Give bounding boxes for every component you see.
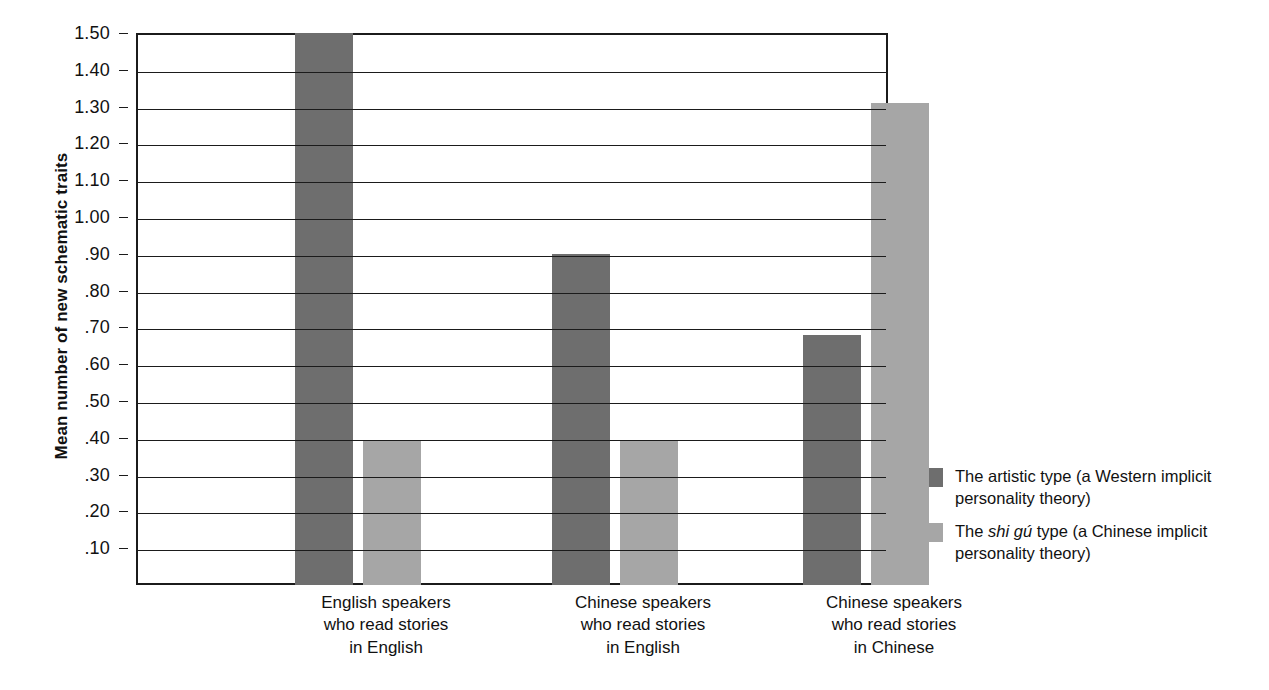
y-axis-tick-label: .60 xyxy=(0,355,110,373)
gridline xyxy=(138,550,886,551)
y-axis-tick-label: 1.30 xyxy=(0,98,110,116)
y-axis-tick-label: .20 xyxy=(0,502,110,520)
y-axis-tick-label: .80 xyxy=(0,282,110,300)
legend-label: The shi gú type (a Chinese implicitperso… xyxy=(955,521,1207,565)
legend-swatch xyxy=(924,523,943,542)
y-axis-tick-label: .70 xyxy=(0,318,110,336)
bar-chart-figure: Mean number of new schematic traits 1.50… xyxy=(0,0,1269,690)
y-axis-tick-mark xyxy=(119,254,128,255)
gridline xyxy=(138,145,886,146)
plot-area xyxy=(136,33,888,585)
y-axis-tick-mark xyxy=(119,180,128,181)
x-axis-category-line: who read stories xyxy=(276,614,496,636)
gridline xyxy=(138,403,886,404)
x-axis-category-line: Chinese speakers xyxy=(533,592,753,614)
y-axis-tick-mark xyxy=(119,364,128,365)
y-axis-tick-mark xyxy=(119,70,128,71)
y-axis-tick-label: 1.50 xyxy=(0,24,110,42)
x-axis-category-line: who read stories xyxy=(784,614,1004,636)
x-axis-category-line: Chinese speakers xyxy=(784,592,1004,614)
y-axis-tick-mark xyxy=(119,143,128,144)
gridline xyxy=(138,440,886,441)
y-axis-tick-mark xyxy=(119,107,128,108)
y-axis-tick-label: .90 xyxy=(0,245,110,263)
y-axis-tick-mark xyxy=(119,475,128,476)
y-axis-tick-label: 1.40 xyxy=(0,61,110,79)
gridline xyxy=(138,293,886,294)
x-axis-category-label: English speakerswho read storiesin Engli… xyxy=(276,592,496,659)
gridline xyxy=(138,109,886,110)
y-axis-tick-mark xyxy=(119,548,128,549)
x-axis-category-line: in English xyxy=(276,637,496,659)
legend: The artistic type (a Western implicitper… xyxy=(924,466,1254,576)
x-axis-category-label: Chinese speakerswho read storiesin Chine… xyxy=(784,592,1004,659)
y-axis-tick-label: .10 xyxy=(0,539,110,557)
y-axis-tick-label: .50 xyxy=(0,392,110,410)
legend-item[interactable]: The shi gú type (a Chinese implicitperso… xyxy=(924,521,1254,565)
y-axis-tick-mark xyxy=(119,511,128,512)
legend-label-line: The artistic type (a Western implicit xyxy=(955,466,1211,488)
legend-label-line: personality theory) xyxy=(955,488,1211,510)
y-axis-tick-label: 1.20 xyxy=(0,134,110,152)
gridline xyxy=(138,477,886,478)
legend-label-emphasis: shi gú xyxy=(988,522,1032,540)
y-axis-tick-label: .30 xyxy=(0,466,110,484)
y-axis-tick-mark xyxy=(119,401,128,402)
gridline xyxy=(138,513,886,514)
gridline xyxy=(138,72,886,73)
x-axis-category-labels: English speakerswho read storiesin Engli… xyxy=(136,592,888,672)
x-axis-category-line: in English xyxy=(533,637,753,659)
legend-item[interactable]: The artistic type (a Western implicitper… xyxy=(924,466,1254,510)
x-axis-category-line: in Chinese xyxy=(784,637,1004,659)
gridline xyxy=(138,256,886,257)
legend-label-line: The shi gú type (a Chinese implicit xyxy=(955,521,1207,543)
x-axis-category-label: Chinese speakerswho read storiesin Engli… xyxy=(533,592,753,659)
y-axis-tick-mark xyxy=(119,438,128,439)
y-axis-tick-label: 1.00 xyxy=(0,208,110,226)
x-axis-category-line: who read stories xyxy=(533,614,753,636)
y-axis-tick-labels: 1.501.401.301.201.101.00.90.80.70.60.50.… xyxy=(0,33,128,585)
legend-swatch xyxy=(924,468,943,487)
x-axis-category-line: English speakers xyxy=(276,592,496,614)
y-axis-tick-mark xyxy=(119,33,128,34)
y-axis-tick-label: .40 xyxy=(0,429,110,447)
y-axis-tick-label: 1.10 xyxy=(0,171,110,189)
y-axis-tick-mark xyxy=(119,327,128,328)
y-axis-tick-mark xyxy=(119,217,128,218)
gridline xyxy=(138,366,886,367)
legend-label: The artistic type (a Western implicitper… xyxy=(955,466,1211,510)
gridline xyxy=(138,182,886,183)
legend-label-line: personality theory) xyxy=(955,543,1207,565)
gridline xyxy=(138,329,886,330)
y-axis-tick-mark xyxy=(119,291,128,292)
gridline xyxy=(138,219,886,220)
